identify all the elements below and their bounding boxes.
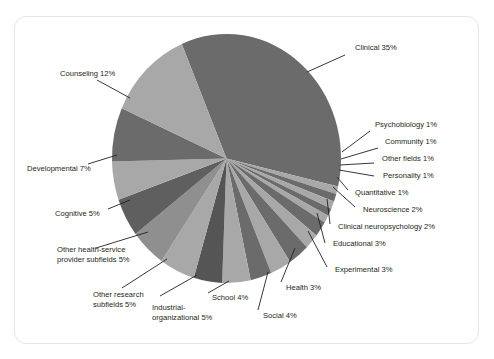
leader-line xyxy=(308,231,327,267)
pie-slice-label-line: Social 4% xyxy=(263,311,297,320)
leader-line xyxy=(160,275,197,296)
pie-chart-canvas: Clinical 35%Psychobiology 1%Community 1%… xyxy=(0,0,494,359)
pie-slice-label-line: Other research xyxy=(93,290,144,299)
pie-slice-label-line: School 4% xyxy=(212,293,249,302)
pie-slice-label: Social 4% xyxy=(263,311,297,320)
pie-slice-label-line: Personality 1% xyxy=(383,171,434,180)
pie-slice-label: Cognitive 5% xyxy=(55,209,100,218)
pie-slice-label: Neuroscience 2% xyxy=(363,205,423,214)
pie-slice-label-line: organizational 5% xyxy=(152,313,213,322)
pie-slice-label-line: Other fields 1% xyxy=(382,154,434,163)
pie-slice-label-line: Other health-service xyxy=(57,245,125,254)
pie-slice-label: Educational 3% xyxy=(333,239,386,248)
pie-slice-label-line: Community 1% xyxy=(385,137,437,146)
pie-slice-label-line: Experimental 3% xyxy=(335,265,393,274)
pie-chart-figure: Clinical 35%Psychobiology 1%Community 1%… xyxy=(0,0,494,359)
pie-slice-label-line: provider subfields 5% xyxy=(57,255,130,264)
pie-slice-label: Clinical neuropsychology 2% xyxy=(338,222,435,231)
pie-slice-label: Health 3% xyxy=(286,283,321,292)
pie-slice-label-line: Clinical 35% xyxy=(355,43,397,52)
pie-slice-label: Other health-serviceprovider subfields 5… xyxy=(57,245,130,264)
pie-slice-label: Experimental 3% xyxy=(335,265,393,274)
pie-slice-label: Psychobiology 1% xyxy=(375,120,437,129)
pie-slice-label-line: Educational 3% xyxy=(333,239,386,248)
pie-slice-label-line: subfields 5% xyxy=(93,300,136,309)
pie-slice-label-line: Counseling 12% xyxy=(60,69,116,78)
pie-slice-label-line: Industrial- xyxy=(152,303,186,312)
leader-line xyxy=(333,187,355,207)
pie-slice-label: Clinical 35% xyxy=(355,43,397,52)
pie-slice-label: Developmental 7% xyxy=(27,164,91,173)
pie-slice-label: Other researchsubfields 5% xyxy=(93,290,144,309)
leader-line xyxy=(208,281,229,293)
pie-slice-label-line: Clinical neuropsychology 2% xyxy=(338,222,435,231)
pie-slice-label-line: Quantitative 1% xyxy=(355,188,409,197)
pie-slice-label: School 4% xyxy=(212,293,249,302)
pie-slice-label: Counseling 12% xyxy=(60,69,116,78)
pie-slice-label: Quantitative 1% xyxy=(355,188,409,197)
pie-slice-label: Community 1% xyxy=(385,137,437,146)
pie-slice-label: Personality 1% xyxy=(383,171,434,180)
pie-slice-label-line: Developmental 7% xyxy=(27,164,91,173)
leader-line xyxy=(341,148,378,159)
pie-slice-label-line: Cognitive 5% xyxy=(55,209,100,218)
pie-slice-label-line: Health 3% xyxy=(286,283,321,292)
leader-line xyxy=(339,170,374,176)
pie-slice-label: Industrial-organizational 5% xyxy=(152,303,213,322)
leader-line xyxy=(342,131,370,152)
pie-slice-label-line: Psychobiology 1% xyxy=(375,120,437,129)
leader-line xyxy=(340,163,374,165)
leader-line xyxy=(97,80,130,98)
leader-line xyxy=(307,55,345,72)
pie-slice-label: Other fields 1% xyxy=(382,154,434,163)
pie-slice-label-line: Neuroscience 2% xyxy=(363,205,423,214)
pie-slices-group xyxy=(112,34,341,283)
